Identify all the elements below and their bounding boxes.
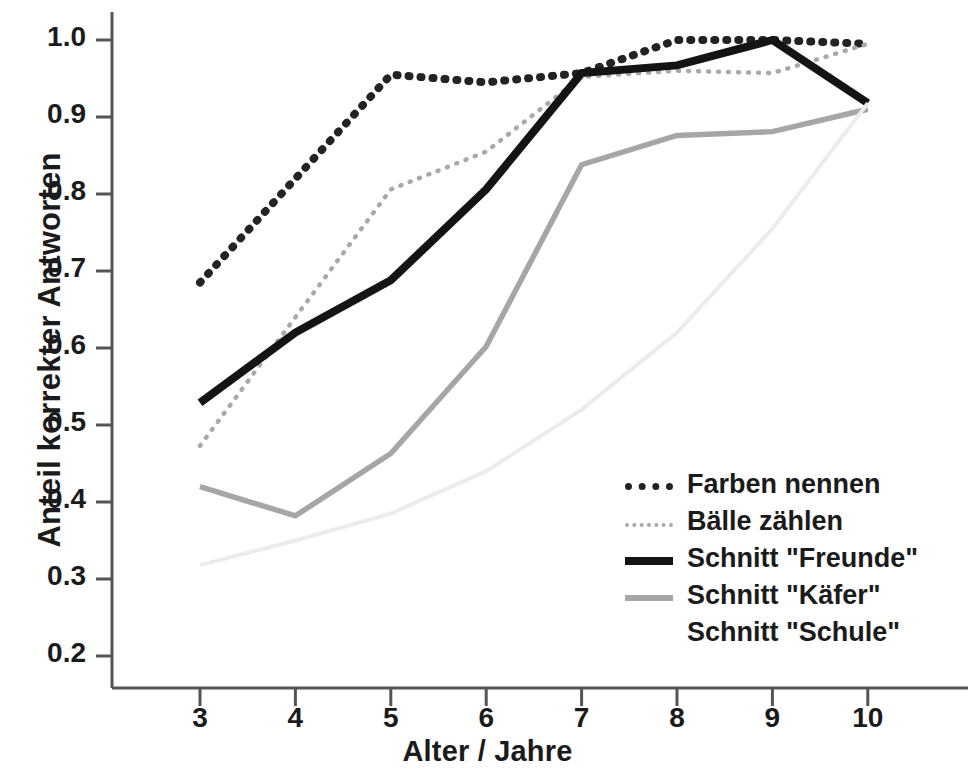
- line-chart: 1.00.90.80.70.60.50.40.30.2 345678910 An…: [0, 0, 975, 783]
- x-tick-label: 6: [436, 702, 536, 734]
- legend-item: Schnitt "Schule": [625, 614, 965, 651]
- legend-label: Schnitt "Schule": [687, 617, 900, 648]
- legend-label: Farben nennen: [687, 469, 881, 500]
- x-tick-label: 8: [627, 702, 727, 734]
- legend-item: Farben nennen: [625, 466, 965, 503]
- series-line-2: [200, 40, 868, 403]
- x-axis-title: Alter / Jahre: [0, 735, 975, 768]
- y-axis-ticks: [96, 40, 112, 656]
- legend-swatch-icon: [625, 626, 673, 640]
- plot-area: [0, 0, 975, 783]
- chart-legend: Farben nennenBälle zählenSchnitt "Freund…: [625, 466, 965, 651]
- series-line-0: [200, 40, 868, 283]
- x-tick-label: 10: [818, 702, 918, 734]
- legend-item: Bälle zählen: [625, 503, 965, 540]
- series-line-1: [200, 44, 868, 446]
- x-tick-label: 9: [722, 702, 822, 734]
- legend-item: Schnitt "Käfer": [625, 577, 965, 614]
- x-tick-label: 4: [245, 702, 345, 734]
- y-axis-title: Anteil korrekter Antworten: [32, 70, 68, 630]
- legend-swatch-icon: [625, 595, 673, 601]
- legend-label: Bälle zählen: [687, 506, 843, 537]
- y-tick-label: 1.0: [0, 21, 86, 53]
- legend-swatch-icon: [625, 483, 673, 490]
- y-tick-label: 0.2: [0, 637, 86, 669]
- legend-item: Schnitt "Freunde": [625, 540, 965, 577]
- legend-swatch-icon: [625, 523, 673, 527]
- x-tick-label: 3: [150, 702, 250, 734]
- legend-swatch-icon: [625, 557, 673, 565]
- legend-label: Schnitt "Käfer": [687, 580, 881, 611]
- legend-label: Schnitt "Freunde": [687, 543, 918, 574]
- series-line-3: [200, 109, 868, 516]
- x-tick-label: 7: [532, 702, 632, 734]
- x-tick-label: 5: [341, 702, 441, 734]
